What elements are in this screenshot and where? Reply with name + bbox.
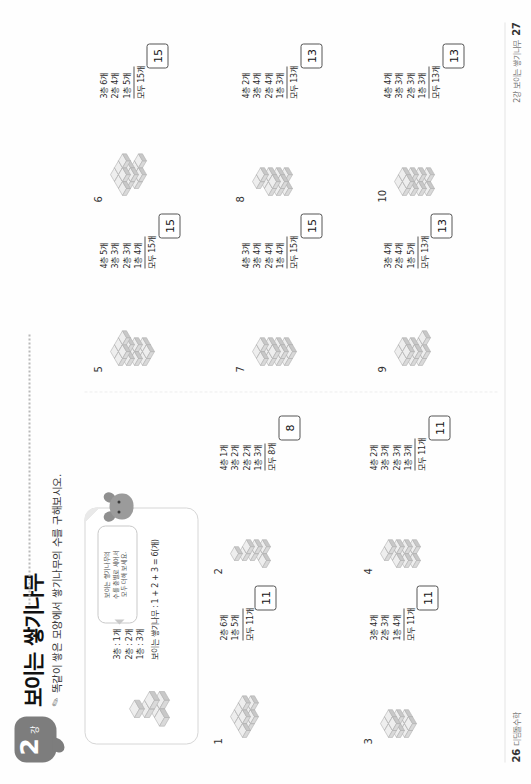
problem-number: 5 xyxy=(92,366,103,372)
total-label: 모두 11개 xyxy=(414,438,427,470)
answer-value: 13 xyxy=(435,219,448,233)
layer-label: 1층 3개 xyxy=(274,66,285,98)
answer-box[interactable]: 11 xyxy=(254,585,276,610)
problem-10: 10 4층 4개3층 3개2층 3개1층 3개 모두 13개 13 xyxy=(376,37,516,202)
answer-box[interactable]: 15 xyxy=(300,213,322,238)
cube-figure-svg xyxy=(108,327,160,368)
footer-right: 2강 보이는 쌓기나무 27 xyxy=(510,22,521,102)
layer-label: 1층 3개 xyxy=(252,443,263,470)
answer-box[interactable]: 15 xyxy=(146,43,168,68)
footer-left-page: 26 xyxy=(510,749,521,762)
example-cube-figure xyxy=(127,687,180,729)
layer-label-list: 4층 5개3층 3개2층 3개1층 4개 모두 15개 xyxy=(98,236,158,268)
layer-label: 1층 4개 xyxy=(274,236,285,268)
problem-cube-figure xyxy=(108,150,156,198)
layer-label: 1층 4개 xyxy=(391,608,402,640)
cube-figure-svg xyxy=(250,164,298,198)
example-sum: 보이는 쌓기나무 : 1 + 2 + 3 = 6(개) xyxy=(148,539,159,659)
total-label: 모두 8개 xyxy=(264,443,277,470)
problem-cube-figure xyxy=(392,164,444,198)
problem-number: 8 xyxy=(234,196,245,202)
layer-label: 4층 3개 xyxy=(240,236,251,268)
page-sheet: 2 강 보이는 쌓기나무 ✎ 똑같이 쌓은 모양에서 쌓기나무의 수를 구해보시… xyxy=(0,0,531,784)
problem-number: 2 xyxy=(212,568,223,574)
problem-number: 3 xyxy=(362,738,373,744)
problem-2: 2 4층 1개3층 2개2층 2개1층 3개 모두 8개 8 xyxy=(212,409,352,574)
problem-cube-figure xyxy=(250,164,302,198)
footer-right-text: 2강 보이는 쌓기나무 xyxy=(510,39,521,102)
problem-4: 4 4층 2개3층 3개2층 3개1층 3개 모두 11개 11 xyxy=(362,409,502,574)
total-label: 모두 13개 xyxy=(428,66,441,98)
layer-label: 1층 3개 xyxy=(402,438,413,470)
answer-value: 11 xyxy=(433,421,446,435)
layer-label: 3층 2개 xyxy=(229,443,240,470)
cube-figure-svg xyxy=(392,327,436,368)
page-header: 2 강 보이는 쌓기나무 ✎ 똑같이 쌓은 모양에서 쌓기나무의 수를 구해보시… xyxy=(10,342,76,762)
problem-number: 10 xyxy=(376,189,387,202)
total-label: 모두 13개 xyxy=(417,236,430,268)
rotated-page-wrapper: 2 강 보이는 쌓기나무 ✎ 똑같이 쌓은 모양에서 쌓기나무의 수를 구해보시… xyxy=(0,0,531,784)
total-label: 모두 11개 xyxy=(242,608,255,640)
layer-label: 3층 4개 xyxy=(251,66,262,98)
problem-cube-figure xyxy=(392,327,440,368)
answer-box[interactable]: 13 xyxy=(442,43,464,68)
speech-line-1: 보이는 쌓기나무의 xyxy=(102,531,111,617)
footer-rule xyxy=(504,22,505,762)
total-label: 모두 15개 xyxy=(144,236,157,268)
example-line-1: 1층 : 3개 xyxy=(134,539,146,659)
example-line-2: 2층 : 2개 xyxy=(123,539,135,659)
cube-figure-svg xyxy=(378,536,426,570)
cube-figure-svg xyxy=(250,334,302,368)
unit-suffix: 강 xyxy=(27,725,40,733)
layer-label: 2층 4개 xyxy=(263,236,274,268)
total-label: 모두 13개 xyxy=(286,66,299,98)
layer-label: 4층 4개 xyxy=(382,66,393,98)
layer-label: 4층 5개 xyxy=(98,236,109,268)
cube-figure-svg xyxy=(108,150,152,198)
problem-number: 1 xyxy=(212,738,223,744)
page-title: 보이는 쌓기나무 xyxy=(16,574,46,706)
layer-label: 3층 4개 xyxy=(251,236,262,268)
problem-6: 6 3층 6개2층 4개1층 5개 모두 15개 15 xyxy=(92,37,232,202)
example-layer-labels: 3층 : 1개 2층 : 2개 1층 : 3개 보이는 쌓기나무 : 1 + 2… xyxy=(111,539,159,659)
column-divider xyxy=(84,391,497,392)
workbook-page: 2 강 보이는 쌓기나무 ✎ 똑같이 쌓은 모양에서 쌓기나무의 수를 구해보시… xyxy=(0,0,531,784)
layer-label: 3층 6개 xyxy=(98,66,109,98)
problem-number: 9 xyxy=(376,366,387,372)
layer-label: 3층 4개 xyxy=(368,608,379,640)
layer-label: 1층 5개 xyxy=(405,236,416,268)
problem-8: 8 4층 2개3층 4개2층 4개1층 3개 모두 13개 13 xyxy=(234,37,374,202)
layer-label: 2층 2개 xyxy=(241,443,252,470)
layer-label-list: 3층 6개2층 4개1층 5개 모두 15개 xyxy=(98,66,146,98)
problem-5: 5 4층 5개3층 3개2층 3개1층 4개 모두 15개 15 xyxy=(92,207,232,372)
answer-box[interactable]: 11 xyxy=(416,585,438,610)
layer-label: 3층 3개 xyxy=(379,438,390,470)
cube-figure-svg xyxy=(228,692,264,740)
layer-label-list: 3층 4개2층 3개1층 4개 모두 11개 xyxy=(368,608,416,640)
answer-box[interactable]: 11 xyxy=(428,415,450,440)
answer-box[interactable]: 8 xyxy=(278,415,300,440)
unit-badge: 2 강 xyxy=(14,716,56,762)
layer-label-list: 4층 3개3층 4개2층 4개1층 4개 모두 15개 xyxy=(240,236,300,268)
problem-number: 4 xyxy=(362,568,373,574)
pencil-icon: ✎ xyxy=(48,695,63,708)
problem-3: 3 3층 4개2층 3개1층 4개 모두 11개 11 xyxy=(362,579,502,744)
layer-label: 3층 3개 xyxy=(393,66,404,98)
answer-box[interactable]: 13 xyxy=(430,213,452,238)
layer-label-list: 4층 4개3층 3개2층 3개1층 3개 모두 13개 xyxy=(382,66,442,98)
layer-label: 4층 1개 xyxy=(218,443,229,470)
layer-label: 3층 3개 xyxy=(109,236,120,268)
layer-label: 2층 3개 xyxy=(391,438,402,470)
answer-box[interactable]: 13 xyxy=(300,43,322,68)
answer-value: 15 xyxy=(163,219,176,233)
layer-label: 1층 5개 xyxy=(121,66,132,98)
answer-value: 15 xyxy=(305,219,318,233)
layer-label-list: 4층 2개3층 3개2층 3개1층 3개 모두 11개 xyxy=(368,438,428,470)
problem-cube-figure xyxy=(228,536,280,570)
footer-right-page: 27 xyxy=(510,22,521,35)
answer-value: 13 xyxy=(447,49,460,63)
answer-value: 15 xyxy=(151,49,164,63)
layer-label: 2층 4개 xyxy=(109,66,120,98)
answer-box[interactable]: 15 xyxy=(158,213,180,238)
header-dotted-rule xyxy=(28,334,30,604)
